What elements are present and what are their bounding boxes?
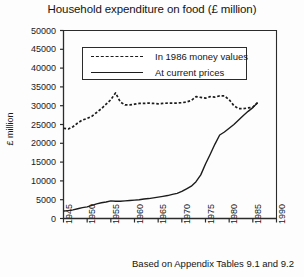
data-series xyxy=(64,93,258,211)
plot-area xyxy=(0,0,304,277)
series-line xyxy=(64,103,258,211)
legend-entry-at-current-prices: At current prices xyxy=(83,64,246,80)
legend-swatch-dashed-icon xyxy=(91,51,143,61)
legend-entry-in-1986-money-values: In 1986 money values xyxy=(83,48,246,64)
legend-swatch-solid-icon xyxy=(91,67,143,77)
chart-container: Household expenditure on food (£ million… xyxy=(0,0,304,277)
legend-label: In 1986 money values xyxy=(155,51,248,62)
legend-label: At current prices xyxy=(155,67,224,78)
legend: In 1986 money values At current prices xyxy=(82,47,247,80)
series-line xyxy=(64,93,258,129)
source-note: Based on Appendix Tables 9.1 and 9.2 xyxy=(0,258,300,269)
